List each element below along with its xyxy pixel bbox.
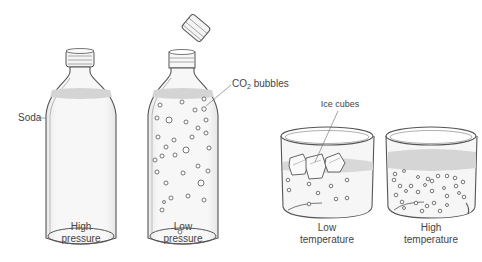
caption-line: temperature: [396, 234, 466, 246]
caption-line: pressure: [56, 233, 106, 245]
label-ice-cubes: Ice cubes: [312, 98, 368, 110]
caption-high-pressure: High pressure: [56, 221, 106, 245]
co2-prefix: CO: [232, 78, 247, 89]
caption-line: Low: [292, 222, 362, 234]
label-co2-bubbles: CO2 bubbles: [232, 78, 289, 93]
caption-line: High: [396, 222, 466, 234]
bottle-cap-icon: [66, 49, 94, 68]
bottle-high-pressure: [46, 49, 116, 245]
caption-high-temperature: High temperature: [396, 222, 466, 246]
label-soda: Soda: [18, 112, 41, 124]
caption-line: Low: [158, 221, 208, 233]
caption-line: pressure: [158, 233, 208, 245]
co2-suffix: bubbles: [251, 78, 289, 89]
beaker-low-temperature: [281, 127, 374, 218]
caption-low-temperature: Low temperature: [292, 222, 362, 246]
caption-line: High: [56, 221, 106, 233]
beaker-high-temperature: [386, 127, 477, 218]
caption-line: temperature: [292, 234, 362, 246]
caption-low-pressure: Low pressure: [158, 221, 208, 245]
diagram-canvas: Soda CO2 bubbles Ice cubes High pressure…: [0, 0, 482, 262]
flying-cap-icon: [181, 13, 211, 42]
bottle-low-pressure: [148, 13, 218, 244]
